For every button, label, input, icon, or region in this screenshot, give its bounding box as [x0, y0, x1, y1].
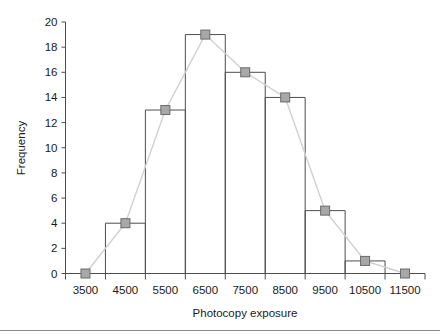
x-tick-label: 3500 [73, 284, 99, 296]
data-point-marker [241, 68, 250, 77]
x-tick-label: 5500 [153, 284, 179, 296]
x-tick-label: 11500 [389, 284, 420, 296]
data-point-marker [281, 93, 290, 102]
x-tick-label: 8500 [272, 284, 298, 296]
chart-canvas: 02468101214161820 3500450055006500750085… [0, 0, 440, 336]
y-tick-label: 4 [51, 217, 58, 229]
histogram-figure: 02468101214161820 3500450055006500750085… [0, 0, 440, 336]
data-point-marker [161, 106, 170, 115]
y-tick-label: 2 [51, 242, 57, 254]
data-point-marker [201, 30, 210, 39]
x-axis-tick-labels: 35004500550065007500850095001050011500 [73, 284, 421, 296]
data-point-marker [81, 269, 90, 278]
y-tick-label: 12 [45, 117, 58, 129]
y-tick-label: 16 [45, 66, 58, 78]
data-point-marker [321, 206, 330, 215]
y-tick-label: 18 [45, 41, 58, 53]
y-tick-label: 20 [45, 16, 58, 28]
y-axis-title: Frequency [15, 121, 27, 176]
data-point-marker [401, 269, 410, 278]
data-point-marker [361, 256, 370, 265]
x-axis-title: Photocopy exposure [193, 307, 298, 319]
data-point-marker [121, 219, 130, 228]
x-tick-label: 9500 [312, 284, 338, 296]
x-tick-label: 4500 [113, 284, 139, 296]
y-tick-label: 6 [51, 192, 57, 204]
y-tick-label: 14 [45, 91, 58, 103]
y-tick-label: 8 [51, 167, 57, 179]
y-tick-label: 0 [51, 268, 57, 280]
x-tick-label: 10500 [349, 284, 381, 296]
x-tick-label: 6500 [193, 284, 219, 296]
y-tick-label: 10 [45, 142, 58, 154]
x-tick-label: 7500 [232, 284, 258, 296]
